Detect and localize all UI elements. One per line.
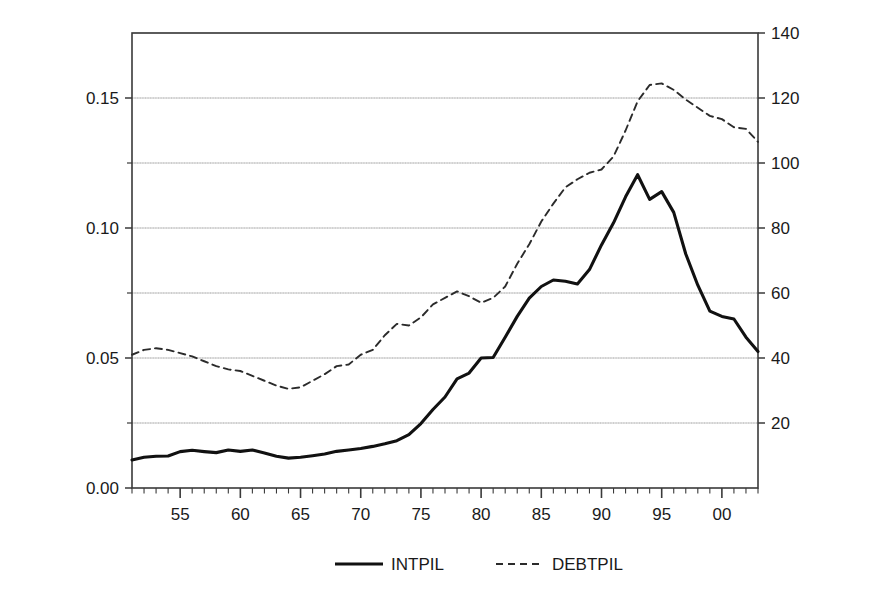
x-tick-label: 90 bbox=[592, 505, 611, 524]
legend-label-intpil: INTPIL bbox=[391, 555, 444, 574]
y-tick-label-right: 100 bbox=[771, 154, 799, 173]
legend-label-debtpil: DEBTPIL bbox=[552, 555, 623, 574]
x-tick-label: 80 bbox=[472, 505, 491, 524]
y-tick-label-right: 120 bbox=[771, 89, 799, 108]
y-tick-label-left: 0.00 bbox=[86, 479, 119, 498]
x-tick-label: 75 bbox=[411, 505, 430, 524]
y-tick-label-left: 0.05 bbox=[86, 349, 119, 368]
x-tick-label: 85 bbox=[532, 505, 551, 524]
y-tick-label-right: 60 bbox=[771, 284, 790, 303]
y-tick-label-left: 0.10 bbox=[86, 219, 119, 238]
x-tick-label: 95 bbox=[652, 505, 671, 524]
y-tick-label-right: 20 bbox=[771, 414, 790, 433]
y-tick-label-right: 80 bbox=[771, 219, 790, 238]
y-tick-label-left: 0.15 bbox=[86, 89, 119, 108]
x-tick-label: 60 bbox=[231, 505, 250, 524]
y-tick-label-right: 140 bbox=[771, 24, 799, 43]
x-tick-label: 55 bbox=[171, 505, 190, 524]
chart-figure: Interest outlays as % of GDP Public debt… bbox=[0, 0, 883, 597]
x-tick-label: 70 bbox=[351, 505, 370, 524]
x-tick-label: 65 bbox=[291, 505, 310, 524]
y-tick-label-right: 40 bbox=[771, 349, 790, 368]
x-tick-label: 00 bbox=[712, 505, 731, 524]
line-chart-plot: 0.000.050.100.15 20406080100120140 55606… bbox=[0, 0, 883, 597]
